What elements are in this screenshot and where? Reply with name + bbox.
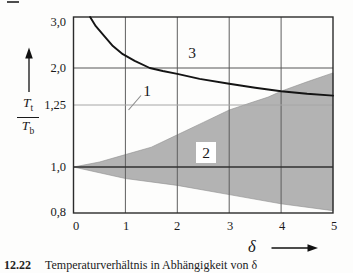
numerator-subscript: t [30,103,33,113]
y-axis-label: Tt Tb [14,95,42,138]
x-tick-3: 3 [220,219,240,233]
y-tick-0.8: 0,8 [19,204,66,220]
x-tick-4: 4 [272,219,292,233]
y-tick-3.0: 3,0 [19,14,66,30]
x-axis-label: δ [248,237,256,257]
x-tick-0: 0 [66,219,86,233]
figure-caption: 12.22Temperaturverhältnis in Abhängigkei… [4,258,257,273]
y-axis-label-numerator: Tt [14,95,42,116]
x-tick-5: 5 [324,219,344,233]
band-label-2: 2 [196,142,216,163]
region-label-3: 3 [185,45,199,61]
denominator-subscript: b [29,125,34,135]
x-tick-2: 2 [167,219,187,233]
y-tick-2.0: 2,0 [19,60,66,76]
curve-label-1: 1 [140,83,154,99]
caption-text: Temperaturverhältnis in Abhängigkeit von… [45,258,257,272]
x-tick-1: 1 [116,219,136,233]
caption-number: 12.22 [4,258,31,272]
y-axis-label-denominator: Tb [14,118,42,139]
y-tick-1.0: 1,0 [19,159,66,175]
